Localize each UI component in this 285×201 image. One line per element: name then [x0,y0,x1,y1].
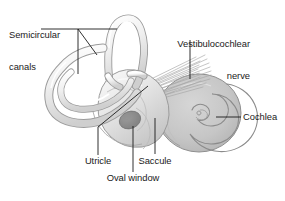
label-semicircular-canals-line2: canals [9,62,60,73]
semicircular-canals-structure [49,18,144,123]
label-saccule: Saccule [131,156,179,167]
label-vestibulocochlear-nerve: Vestibulocochlear nerve [155,18,250,103]
label-vestibulocochlear-nerve-line1: Vestibulocochlear [155,39,250,50]
inner-ear-diagram: Semicircular canals Vestibulocochlear ne… [0,0,285,201]
label-semicircular-canals: Semicircular canals [9,9,60,94]
label-cochlea: Cochlea [243,112,277,123]
label-semicircular-canals-line1: Semicircular [9,30,60,41]
label-oval-window: Oval window [100,173,166,184]
label-vestibulocochlear-nerve-line2: nerve [155,71,250,82]
label-utricle: Utricle [74,156,122,167]
